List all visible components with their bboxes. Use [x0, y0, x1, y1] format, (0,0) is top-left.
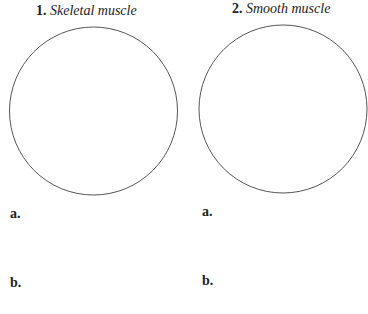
panel-2-answer-a-label: a.: [202, 204, 213, 220]
panel-1-drawing-circle[interactable]: [10, 27, 178, 195]
panel-2-drawing-circle[interactable]: [199, 25, 367, 193]
panel-2-answer-b-label: b.: [202, 273, 213, 289]
panel-1-answer-a-label: a.: [10, 206, 21, 222]
drawing-circles: [0, 0, 368, 314]
panel-1-answer-b-label: b.: [10, 275, 21, 291]
